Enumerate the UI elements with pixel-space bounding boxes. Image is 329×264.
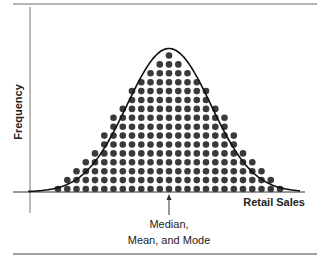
data-dot — [157, 106, 164, 113]
data-dot — [194, 115, 201, 122]
data-dot — [166, 79, 173, 86]
data-dot — [203, 141, 210, 148]
data-dot — [129, 150, 136, 157]
data-dot — [157, 115, 164, 122]
data-dot — [175, 132, 182, 139]
data-dot — [166, 61, 173, 68]
data-dot — [175, 177, 182, 184]
data-dot — [110, 141, 117, 148]
data-dot — [231, 168, 238, 175]
data-dot — [249, 186, 256, 193]
data-dot — [120, 150, 127, 157]
data-dot — [175, 168, 182, 175]
data-dot — [240, 186, 247, 193]
data-dot — [157, 132, 164, 139]
data-dot — [147, 97, 154, 104]
data-dot — [138, 150, 145, 157]
data-dot — [120, 168, 127, 175]
annotation-line-1: Median, — [149, 218, 188, 230]
data-dot — [101, 168, 108, 175]
annotation-arrow-head — [167, 194, 172, 200]
data-dot — [120, 132, 127, 139]
data-dot — [129, 177, 136, 184]
annotation-line-2: Mean, and Mode — [128, 234, 211, 246]
data-dot — [110, 168, 117, 175]
data-dot — [194, 141, 201, 148]
data-dot — [120, 159, 127, 166]
data-dot — [138, 88, 145, 95]
data-dot — [64, 186, 71, 193]
data-dot — [129, 123, 136, 130]
data-dot — [258, 186, 265, 193]
data-dot — [147, 70, 154, 77]
data-dot — [101, 186, 108, 193]
data-dot — [203, 115, 210, 122]
data-dot — [194, 168, 201, 175]
data-dot — [194, 186, 201, 193]
data-dot — [157, 123, 164, 130]
dot-group — [55, 52, 284, 192]
data-dot — [184, 97, 191, 104]
data-dot — [221, 177, 228, 184]
data-dot — [138, 141, 145, 148]
data-dot — [147, 88, 154, 95]
data-dot — [194, 150, 201, 157]
data-dot — [138, 186, 145, 193]
data-dot — [175, 186, 182, 193]
data-dot — [194, 132, 201, 139]
data-dot — [166, 141, 173, 148]
data-dot — [157, 61, 164, 68]
data-dot — [175, 70, 182, 77]
data-dot — [221, 186, 228, 193]
data-dot — [110, 150, 117, 157]
data-dot — [184, 177, 191, 184]
data-dot — [175, 123, 182, 130]
data-dot — [110, 159, 117, 166]
data-dot — [129, 115, 136, 122]
data-dot — [147, 177, 154, 184]
data-dot — [157, 159, 164, 166]
data-dot — [184, 141, 191, 148]
data-dot — [212, 132, 219, 139]
data-dot — [92, 150, 99, 157]
data-dot — [73, 168, 80, 175]
data-dot — [166, 186, 173, 193]
data-dot — [212, 123, 219, 130]
data-dot — [175, 150, 182, 157]
data-dot — [83, 177, 90, 184]
data-dot — [129, 168, 136, 175]
data-dot — [147, 115, 154, 122]
data-dot — [203, 168, 210, 175]
data-dot — [231, 177, 238, 184]
data-dot — [110, 115, 117, 122]
data-dot — [138, 97, 145, 104]
data-dot — [212, 159, 219, 166]
data-dot — [166, 132, 173, 139]
data-dot — [157, 168, 164, 175]
data-dot — [221, 115, 228, 122]
data-dot — [212, 150, 219, 157]
data-dot — [221, 168, 228, 175]
data-dot — [166, 150, 173, 157]
data-dot — [166, 115, 173, 122]
data-dot — [101, 132, 108, 139]
data-dot — [101, 159, 108, 166]
data-dot — [166, 123, 173, 130]
data-dot — [138, 168, 145, 175]
data-dot — [166, 97, 173, 104]
data-dot — [203, 132, 210, 139]
data-dot — [184, 106, 191, 113]
data-dot — [138, 115, 145, 122]
data-dot — [268, 186, 275, 193]
data-dot — [166, 159, 173, 166]
data-dot — [147, 168, 154, 175]
data-dot — [157, 88, 164, 95]
data-dot — [249, 159, 256, 166]
x-axis-label: Retail Sales — [243, 196, 305, 208]
data-dot — [166, 177, 173, 184]
data-dot — [73, 186, 80, 193]
chart: Frequency Retail Sales Median, Mean, and… — [0, 0, 329, 264]
data-dot — [157, 141, 164, 148]
data-dot — [203, 150, 210, 157]
data-dot — [240, 150, 247, 157]
